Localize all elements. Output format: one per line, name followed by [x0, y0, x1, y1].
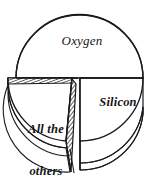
slice-label-oxygen: Oxygen — [42, 34, 122, 49]
silicon-slice — [80, 78, 143, 141]
slice-label-all-others: All the others — [14, 94, 78, 181]
all-others-top-cut-depth — [8, 78, 72, 84]
slice-label-silicon: Silicon — [85, 95, 151, 109]
slice-label-all-others-line1: All the — [14, 122, 78, 136]
pie-chart-figure: Oxygen Silicon All the others — [0, 0, 163, 181]
slice-label-all-others-line2: others — [14, 164, 78, 178]
